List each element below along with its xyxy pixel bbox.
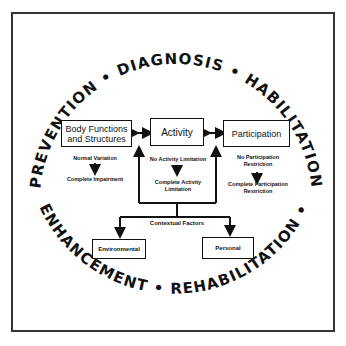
activity-label: Activity bbox=[161, 127, 193, 138]
participation-no-restriction: No Participation Restriction bbox=[228, 154, 288, 168]
participation-complete-line1: Complete Participation bbox=[222, 181, 294, 188]
participation-complete-restriction: Complete Participation Restriction bbox=[222, 181, 294, 195]
body-complete-impairment: Complete Impairment bbox=[62, 176, 128, 183]
participation-label: Participation bbox=[232, 129, 282, 139]
participation-box: Participation bbox=[223, 120, 290, 147]
environmental-label: Environmental bbox=[98, 246, 140, 252]
body-functions-line1: Body Functions bbox=[65, 124, 127, 134]
body-functions-line2: and Structures bbox=[67, 134, 126, 144]
activity-box: Activity bbox=[150, 118, 204, 146]
participation-complete-line2: Restriction bbox=[222, 188, 294, 195]
activity-complete-limitation: Complete Activity Limitation bbox=[148, 179, 208, 193]
contextual-factors-label: Contextual Factors bbox=[140, 220, 214, 227]
participation-no-line2: Restriction bbox=[228, 161, 288, 168]
environmental-box: Environmental bbox=[92, 239, 146, 259]
participation-no-line1: No Participation bbox=[228, 154, 288, 161]
ring-text: PREVENTION • DIAGNOSIS • HABILITATION EN… bbox=[0, 0, 346, 346]
activity-complete-line1: Complete Activity bbox=[148, 179, 208, 186]
body-functions-box: Body Functions and Structures bbox=[61, 120, 132, 147]
activity-no-limitation: No Activity Limitation bbox=[143, 156, 213, 163]
activity-complete-line2: Limitation bbox=[148, 186, 208, 193]
personal-box: Personal bbox=[202, 237, 254, 259]
personal-label: Personal bbox=[215, 245, 240, 251]
ring-bottom-text: ENHANCEMENT • REHABILITATION • bbox=[36, 201, 313, 298]
body-normal-variation: Normal Variation bbox=[65, 155, 125, 162]
